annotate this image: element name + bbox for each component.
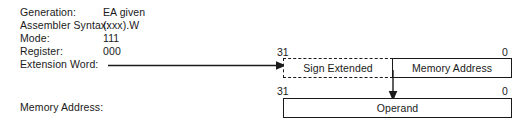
- attribute-label-generation: Generation:: [20, 6, 76, 18]
- upper-word-bit-31: 31: [277, 47, 289, 58]
- attribute-value-generation: EA given: [103, 6, 145, 18]
- field-memory-address: Memory Address: [392, 58, 512, 78]
- attribute-label-extension-word: Extension Word:: [20, 58, 98, 70]
- field-operand-label: Operand: [377, 102, 419, 114]
- lower-word-bit-0: 0: [502, 86, 508, 97]
- field-memory-address-label: Memory Address: [412, 62, 492, 74]
- attribute-value-assembler-syntax: (xxx).W: [103, 19, 139, 31]
- attribute-value-mode: 111: [103, 32, 119, 44]
- lower-word-bit-31: 31: [277, 86, 289, 97]
- extension-word-arrow-icon: [108, 58, 286, 74]
- field-sign-extended-label: Sign Extended: [303, 62, 373, 74]
- upper-word-bit-0: 0: [502, 47, 508, 58]
- attribute-label-assembler-syntax: Assembler Syntax:: [20, 19, 109, 31]
- attribute-label-register: Register:: [20, 45, 63, 57]
- attribute-value-register: 000: [103, 45, 121, 57]
- memory-address-row-label: Memory Address:: [20, 101, 103, 113]
- field-sign-extended: Sign Extended: [283, 58, 393, 78]
- field-operand: Operand: [283, 98, 512, 118]
- attribute-label-mode: Mode:: [20, 32, 50, 44]
